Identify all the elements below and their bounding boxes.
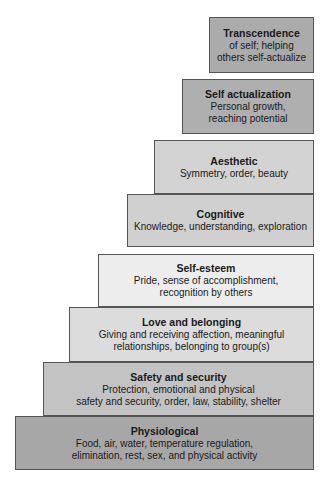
level-safety-and-security: Safety and security Protection, emotiona… — [43, 362, 314, 416]
level-title: Self actualization — [205, 88, 291, 101]
level-title: Self-esteem — [177, 262, 236, 275]
level-desc-line: elimination, rest, sex, and physical act… — [72, 450, 258, 462]
level-desc-line: Personal growth, — [210, 101, 285, 113]
level-desc-line: Knowledge, understanding, exploration — [134, 221, 307, 233]
level-desc-line: Symmetry, order, beauty — [180, 168, 288, 180]
level-desc-line: recognition by others — [160, 287, 253, 299]
level-desc-line: reaching potential — [209, 113, 288, 125]
level-title: Love and belonging — [142, 316, 241, 329]
level-desc-line: safety and security, order, law, stabili… — [76, 396, 281, 408]
level-self-actualization: Self actualization Personal growth, reac… — [182, 79, 314, 134]
level-desc-line: relationships, belonging to group(s) — [113, 341, 269, 353]
level-aesthetic: Aesthetic Symmetry, order, beauty — [154, 140, 314, 194]
level-desc-line: Giving and receiving affection, meaningf… — [99, 329, 284, 341]
level-desc-line: Pride, sense of accomplishment, — [134, 275, 279, 287]
level-desc-line: others self-actualize — [217, 52, 306, 64]
level-title: Physiological — [131, 425, 199, 438]
level-desc-line: of self; helping — [229, 40, 294, 52]
level-title: Transcendence — [223, 27, 299, 40]
level-transcendence: Transcendence of self; helping others se… — [209, 17, 314, 73]
level-title: Cognitive — [197, 208, 245, 221]
level-cognitive: Cognitive Knowledge, understanding, expl… — [127, 194, 314, 247]
level-desc-line: Protection, emotional and physical — [102, 384, 254, 396]
level-love-and-belonging: Love and belonging Giving and receiving … — [69, 307, 314, 362]
level-self-esteem: Self-esteem Pride, sense of accomplishme… — [98, 254, 314, 307]
level-title: Safety and security — [130, 371, 226, 384]
level-physiological: Physiological Food, air, water, temperat… — [15, 416, 314, 470]
level-desc-line: Food, air, water, temperature regulation… — [76, 438, 253, 450]
level-title: Aesthetic — [210, 155, 257, 168]
